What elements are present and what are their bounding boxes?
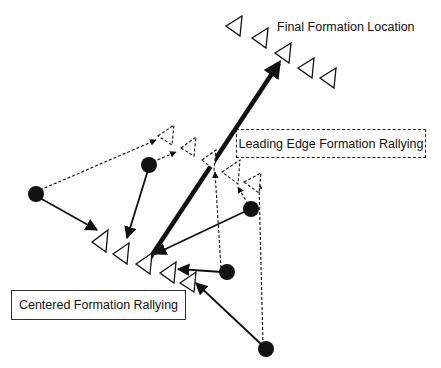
triangle-icon — [160, 262, 176, 283]
triangle-icon — [275, 43, 291, 63]
final-formation-label: Final Formation Location — [277, 20, 415, 34]
triangle-icon — [226, 16, 242, 36]
triangle-icon — [92, 230, 108, 252]
triangle-icon — [136, 253, 152, 274]
centered-formation-triangles — [92, 230, 196, 292]
triangle-icon — [158, 125, 174, 145]
triangle-icon — [252, 28, 268, 48]
centered-label-box: Centered Formation Rallying — [11, 290, 186, 320]
unit-circle-icon — [28, 186, 44, 202]
triangle-icon — [244, 173, 261, 193]
unit-circle-icon — [141, 157, 157, 173]
triangle-icon — [180, 272, 196, 292]
unit-circle-icon — [219, 264, 235, 280]
triangle-icon — [320, 68, 336, 88]
centered-label: Centered Formation Rallying — [19, 298, 178, 312]
unit-circle-icon — [258, 341, 274, 357]
leading-edge-label: Leading Edge Formation Rallying — [239, 137, 424, 151]
triangle-icon — [298, 58, 314, 78]
unit-circle-icon — [243, 201, 259, 217]
triangle-icon — [113, 243, 129, 264]
triangle-icon — [222, 160, 240, 184]
triangle-icon — [181, 137, 196, 156]
leading-edge-label-box: Leading Edge Formation Rallying — [236, 129, 426, 158]
